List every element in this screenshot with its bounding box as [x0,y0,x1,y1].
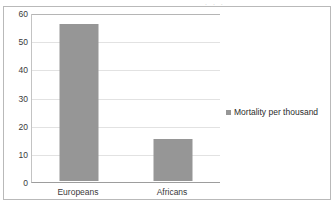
bar-group [32,12,126,181]
x-tick-label-europeans: Europeans [31,187,125,197]
bar-europeans[interactable] [60,24,99,181]
x-axis: Europeans Africans [31,185,220,201]
y-tick-label: 20 [6,122,28,131]
bar-africans[interactable] [154,139,193,181]
scan-edge-artifact: . . . [0,0,335,5]
y-tick-label: 40 [6,66,28,75]
y-tick-label: 50 [6,38,28,47]
chart-legend[interactable]: Mortality per thousand [226,107,318,117]
x-tick-label-africans: Africans [125,187,219,197]
bar-group [126,12,220,181]
plot-area [31,14,220,183]
legend-swatch-icon [226,110,231,115]
y-tick-label: 0 [6,179,28,188]
legend-label: Mortality per thousand [234,107,318,117]
y-tick-label: 30 [6,94,28,103]
y-tick-label: 10 [6,150,28,159]
y-tick-label: 60 [6,10,28,19]
y-axis: 60 50 40 30 20 10 0 [4,14,28,183]
chart-frame: 60 50 40 30 20 10 0 Europeans Africans M… [3,6,331,200]
